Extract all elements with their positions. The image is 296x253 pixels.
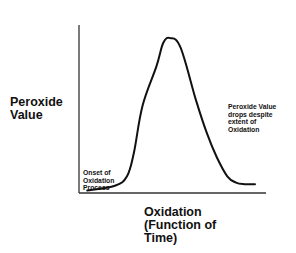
x-axis-label: Oxidation (Function of Time) — [144, 206, 216, 245]
annotation-onset: Onset of Oxidation Process — [83, 169, 114, 192]
y-axis-label: Peroxide Value — [10, 96, 63, 122]
annotation-peroxide-drop: Peroxide Value drops despite extent of O… — [228, 103, 276, 133]
